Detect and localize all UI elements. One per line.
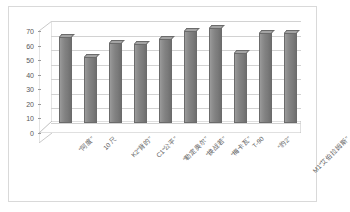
category-label: C1“公平” (155, 135, 179, 159)
category-label: T-90 (251, 135, 265, 149)
y-axis-tick (38, 133, 41, 134)
bar-top-face (59, 34, 75, 37)
bar-top-face (84, 54, 100, 57)
bar-slot (84, 21, 97, 123)
bar-slot (259, 21, 272, 123)
bar[interactable] (109, 43, 122, 123)
bar-slot (209, 21, 222, 123)
bar-slot (109, 21, 122, 123)
bar[interactable] (159, 39, 172, 124)
y-axis-tick (38, 104, 41, 105)
bar[interactable] (209, 28, 222, 123)
y-axis-tick-label: 60 (26, 42, 34, 49)
y-axis-tick-label: 50 (26, 57, 34, 64)
bar-top-face (209, 25, 225, 28)
y-axis-tick (38, 31, 41, 32)
bar-slot (234, 21, 247, 123)
bar[interactable] (184, 31, 197, 123)
bar[interactable] (259, 33, 272, 123)
category-label: “豹⁡2” (276, 135, 292, 151)
bar-top-face (259, 30, 275, 33)
y-axis-tick (38, 60, 41, 61)
bar[interactable] (84, 57, 97, 123)
y-axis-tick-label: 40 (26, 71, 34, 78)
bar-series (51, 21, 301, 123)
category-label: “勒定奥尔” (181, 135, 209, 163)
category-label: M1“艾伯拉姆斯” (311, 135, 350, 174)
y-axis-tick-label: 20 (26, 100, 34, 107)
category-label: “阿度” (77, 135, 95, 153)
y-axis-tick (38, 75, 41, 76)
bar[interactable] (134, 44, 147, 123)
category-label: 10 尺 (102, 135, 118, 151)
bar-slot (284, 21, 297, 123)
y-axis-tick (38, 89, 41, 90)
bar-slot (159, 21, 172, 123)
chart-frame: 010203040506070 “阿度”10 尺K2“背的”C1“公平”“勒定奥… (8, 6, 317, 202)
bar[interactable] (234, 53, 247, 123)
y-axis-tick (38, 46, 41, 47)
gridline (51, 123, 301, 124)
category-label: K2“背的” (130, 135, 154, 159)
bar-slot (184, 21, 197, 123)
y-axis-tick-label: 10 (26, 115, 34, 122)
bar-slot (59, 21, 72, 123)
y-axis-tick (38, 118, 41, 119)
bar-slot (134, 21, 147, 123)
bar-top-face (184, 28, 200, 31)
y-axis-tick-label: 70 (26, 28, 34, 35)
bar[interactable] (284, 33, 297, 123)
bar[interactable] (59, 37, 72, 123)
category-axis-labels: “阿度”10 尺K2“背的”C1“公平”“勒定奥尔”“换战若”“梅卡瓦”T-90… (39, 135, 319, 201)
bar-top-face (284, 30, 300, 33)
bar-top-face (159, 36, 175, 39)
category-label: “梅卡瓦” (229, 135, 252, 158)
y-axis-tick-label: 30 (26, 86, 34, 93)
bar-top-face (134, 41, 150, 44)
bar-top-face (109, 40, 125, 43)
bar-top-face (234, 50, 250, 53)
y-axis-tick-label: 0 (30, 130, 34, 137)
plot-area: 010203040506070 (39, 21, 301, 133)
